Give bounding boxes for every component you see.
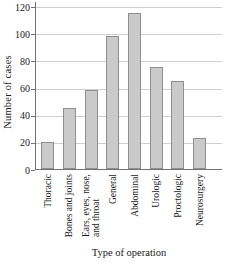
bar-chart-figure: Number of cases Type of operation 020406…: [0, 0, 225, 269]
bar: [128, 13, 141, 169]
y-tick-mark: [31, 34, 35, 35]
category-label: Ears, eyes, nose, and throat: [81, 174, 102, 237]
y-tick-mark: [31, 89, 35, 90]
y-tick-mark: [31, 7, 35, 8]
y-tick-label: 80: [20, 56, 30, 67]
y-tick-label: 40: [20, 110, 30, 121]
category-label: General: [108, 174, 119, 204]
y-tick-mark: [31, 61, 35, 62]
category-label: Urologic: [151, 174, 162, 208]
y-tick-label: 120: [15, 2, 30, 13]
y-tick-mark: [31, 143, 35, 144]
category-label: Bones and joints: [64, 174, 75, 237]
y-tick-mark: [31, 170, 35, 171]
plot-area: [35, 2, 222, 170]
y-tick-mark: [31, 116, 35, 117]
y-tick-label: 60: [20, 83, 30, 94]
y-tick-label: 100: [15, 29, 30, 40]
x-axis-title: Type of operation: [92, 247, 167, 258]
bar: [193, 138, 206, 169]
bar: [63, 108, 76, 169]
gridline: [36, 7, 222, 8]
category-label: Thoracic: [42, 174, 53, 208]
bar: [171, 81, 184, 169]
bar: [41, 142, 54, 169]
category-label: Abdominal: [129, 174, 140, 217]
bar: [150, 67, 163, 169]
category-label: Neurosurgery: [194, 174, 205, 226]
bar: [85, 90, 98, 169]
bar: [106, 36, 119, 169]
category-label: Proctologic: [173, 174, 184, 218]
y-tick-label: 20: [20, 137, 30, 148]
y-axis-title: Number of cases: [2, 55, 13, 129]
y-tick-label: 0: [25, 165, 30, 176]
